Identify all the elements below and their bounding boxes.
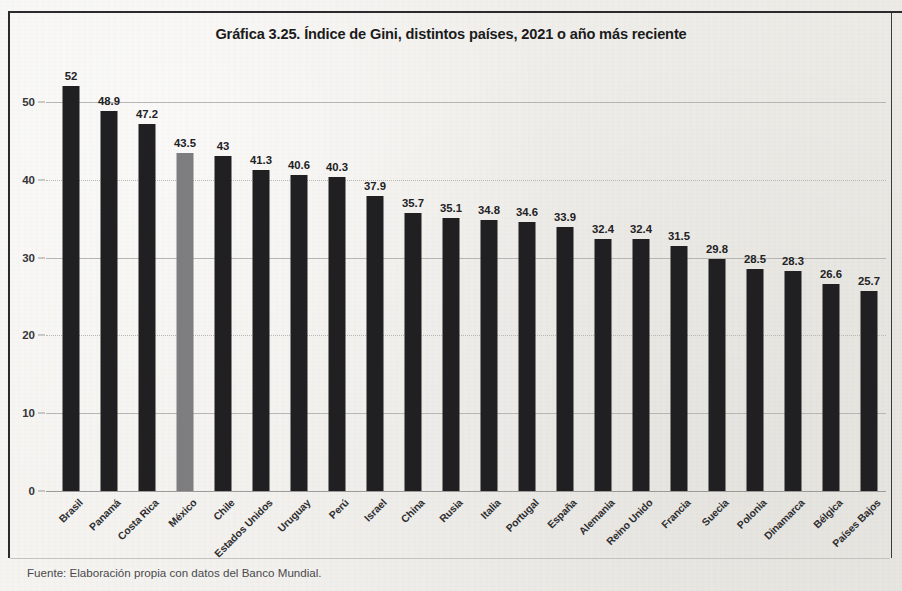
bar-slot: 32.4 — [584, 60, 622, 491]
y-tick-label-20: 20 — [22, 329, 35, 341]
bar-uruguay[interactable] — [291, 175, 308, 491]
bar-slot: 43.5 — [166, 60, 204, 491]
bar-slot: 52 — [52, 60, 90, 491]
y-tick-mark-10 — [38, 413, 45, 414]
bar-dinamarca[interactable] — [785, 271, 802, 491]
bar-value-label: 34.6 — [516, 206, 538, 218]
y-tick-label-10: 10 — [22, 407, 35, 419]
bar-value-label: 35.7 — [402, 197, 424, 209]
bar-slot: 35.1 — [432, 60, 470, 491]
bar-slot: 28.3 — [774, 60, 812, 491]
bar-slot: 26.6 — [812, 60, 850, 491]
y-tick-mark-40 — [38, 179, 45, 180]
bar-value-label: 34.8 — [478, 204, 500, 216]
bar-chile[interactable] — [215, 156, 232, 491]
bar-value-label: 35.1 — [440, 202, 462, 214]
source-note: Fuente: Elaboración propia con datos del… — [27, 566, 322, 579]
bar-panam-[interactable] — [101, 111, 118, 491]
bar-alemania[interactable] — [595, 239, 612, 491]
bar-value-label: 28.3 — [782, 255, 804, 267]
bar-rusia[interactable] — [443, 218, 460, 491]
bar-m-xico[interactable] — [177, 153, 194, 491]
bar-value-label: 26.6 — [820, 268, 842, 280]
y-tick-label-50: 50 — [22, 96, 35, 108]
y-tick-mark-50 — [38, 102, 45, 103]
bar-value-label: 31.5 — [668, 230, 690, 242]
bar-slot: 33.9 — [546, 60, 584, 491]
bar-slot: 35.7 — [394, 60, 432, 491]
y-tick-mark-30 — [38, 257, 45, 258]
bar-slot: 25.7 — [850, 60, 888, 491]
bar-slot: 37.9 — [356, 60, 394, 491]
footer-separator — [10, 558, 890, 559]
bar-espa-a[interactable] — [557, 227, 574, 491]
bar-b-lgica[interactable] — [823, 284, 840, 491]
chart-title: Gráfica 3.25. Índice de Gini, distintos … — [0, 26, 902, 42]
bar-value-label: 32.4 — [630, 223, 652, 235]
bar-portugal[interactable] — [519, 222, 536, 491]
bar-value-label: 47.2 — [136, 108, 158, 120]
bar-value-label: 37.9 — [364, 180, 386, 192]
bar-slot: 34.8 — [470, 60, 508, 491]
bar-suecia[interactable] — [709, 259, 726, 491]
y-tick-label-30: 30 — [22, 252, 35, 264]
y-tick-mark-0 — [38, 491, 45, 492]
bar-slot: 34.6 — [508, 60, 546, 491]
bar-value-label: 43 — [217, 140, 230, 152]
bar-value-label: 32.4 — [592, 223, 614, 235]
bar-value-label: 41.3 — [250, 154, 272, 166]
bar-per-[interactable] — [329, 177, 346, 491]
scanned-page: Gráfica 3.25. Índice de Gini, distintos … — [0, 0, 902, 591]
y-tick-mark-20 — [38, 335, 45, 336]
bar-value-label: 28.5 — [744, 253, 766, 265]
bar-china[interactable] — [405, 213, 422, 491]
bar-polonia[interactable] — [747, 269, 764, 491]
bar-value-label: 40.6 — [288, 159, 310, 171]
bar-value-label: 25.7 — [858, 275, 880, 287]
bar-value-label: 48.9 — [98, 95, 120, 107]
bar-value-label: 43.5 — [174, 137, 196, 149]
bar-slot: 32.4 — [622, 60, 660, 491]
bar-value-label: 33.9 — [554, 211, 576, 223]
bar-reino-unido[interactable] — [633, 239, 650, 491]
bar-value-label: 40.3 — [326, 161, 348, 173]
bar-slot: 48.9 — [90, 60, 128, 491]
bar-slot: 28.5 — [736, 60, 774, 491]
bar-israel[interactable] — [367, 196, 384, 491]
bar-slot: 40.6 — [280, 60, 318, 491]
bar-value-label: 52 — [65, 70, 78, 82]
bar-brasil[interactable] — [63, 86, 80, 491]
page-top-rule — [8, 11, 902, 13]
bar-slot: 31.5 — [660, 60, 698, 491]
bar-slot: 29.8 — [698, 60, 736, 491]
gridline-0 — [46, 491, 886, 492]
bar-italia[interactable] — [481, 220, 498, 491]
y-tick-label-0: 0 — [29, 485, 35, 497]
bar-francia[interactable] — [671, 246, 688, 491]
bar-slot: 41.3 — [242, 60, 280, 491]
bar-estados-unidos[interactable] — [253, 170, 270, 491]
bar-slot: 40.3 — [318, 60, 356, 491]
bar-pa-ses-bajos[interactable] — [861, 291, 878, 491]
bar-value-label: 29.8 — [706, 243, 728, 255]
bar-slot: 47.2 — [128, 60, 166, 491]
chart-plot-area: 01020304050 5248.947.243.54341.340.640.3… — [46, 60, 886, 491]
y-tick-label-40: 40 — [22, 174, 35, 186]
bar-slot: 43 — [204, 60, 242, 491]
bar-costa-rica[interactable] — [139, 124, 156, 491]
